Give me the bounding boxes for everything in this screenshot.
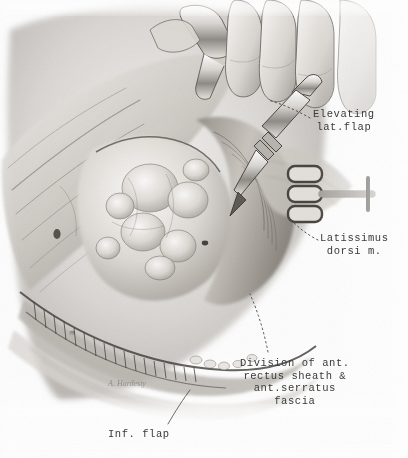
artist-signature: A. Hardesty <box>108 379 194 393</box>
label-division-ant-rectus-sheath: Division of ant. rectus sheath & ant.ser… <box>240 357 350 407</box>
label-inf-flap: Inf. flap <box>108 428 170 441</box>
label-elevating-lat-flap: Elevating lat.flap <box>313 108 375 133</box>
label-latissimus-dorsi: Latissimus dorsi m. <box>320 232 389 257</box>
surgical-illustration-figure: Elevating lat.flap Latissimus dorsi m. D… <box>0 0 408 458</box>
lobulated-fat-tissue <box>77 136 232 300</box>
